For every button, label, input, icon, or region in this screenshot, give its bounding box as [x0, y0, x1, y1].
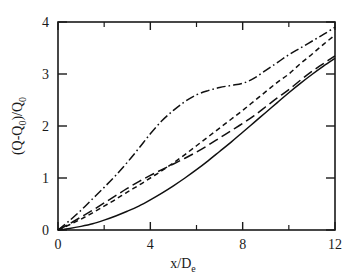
figure-container: 04812 01234 x/De (Q-Q0)/Q0	[0, 0, 356, 278]
x-tick-label: 8	[239, 237, 246, 252]
x-axis-tick-labels: 04812	[55, 237, 343, 252]
x-axis-title-sub: e	[191, 263, 196, 274]
y-tick-label: 3	[42, 67, 49, 82]
x-tick-label: 0	[55, 237, 62, 252]
x-tick-label: 4	[147, 237, 154, 252]
y-axis-tick-labels: 01234	[42, 15, 49, 238]
y-tick-label: 1	[42, 171, 49, 186]
y-axis-title-open: (Q-Q	[10, 126, 26, 156]
x-tick-label: 12	[328, 237, 342, 252]
plot-background	[58, 22, 335, 230]
x-axis-title-main: x/D	[170, 256, 191, 271]
svg-text:x/De: x/De	[170, 256, 196, 274]
x-axis-title: x/De	[170, 256, 196, 274]
y-tick-label: 0	[42, 223, 49, 238]
line-chart: 04812 01234 x/De (Q-Q0)/Q0	[0, 0, 356, 278]
svg-text:(Q-Q0)/Q0: (Q-Q0)/Q0	[10, 97, 28, 155]
y-tick-label: 2	[42, 119, 49, 134]
y-axis-title-mid: )/Q	[10, 102, 26, 121]
y-axis-title-sub2: 0	[17, 97, 28, 102]
y-axis-title: (Q-Q0)/Q0	[10, 97, 28, 155]
y-tick-label: 4	[42, 15, 49, 30]
